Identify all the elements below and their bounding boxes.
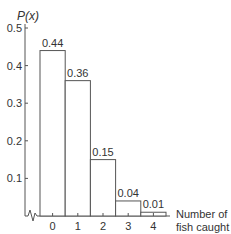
bar-0 [40, 51, 65, 216]
x-tick-label: 4 [150, 220, 156, 232]
bar-value-label: 0.15 [92, 146, 113, 158]
bar-value-label: 0.01 [143, 198, 164, 210]
bar-1 [65, 81, 90, 216]
x-tick-label: 3 [125, 220, 131, 232]
x-tick-label: 1 [75, 220, 81, 232]
bar-value-label: 0.04 [117, 187, 138, 199]
bar-value-label: 0.44 [42, 37, 63, 49]
probability-histogram: P(x) 0.10.20.30.40.5 0.440.360.150.040.0… [0, 0, 231, 234]
x-axis-title-line-1: Number of [176, 208, 228, 220]
y-tick-label: 0.3 [7, 97, 22, 109]
bar-value-label: 0.36 [67, 67, 88, 79]
y-tick-label: 0.5 [7, 22, 22, 34]
y-axis: P(x) [17, 9, 39, 216]
y-tick-label: 0.2 [7, 135, 22, 147]
x-tick-label: 0 [50, 220, 56, 232]
y-axis-title: P(x) [17, 9, 39, 23]
x-axis-title-line-2: fish caught [176, 221, 229, 233]
x-tick-label: 2 [100, 220, 106, 232]
y-tick-label: 0.1 [7, 172, 22, 184]
x-axis-title: Number of fish caught [176, 208, 229, 233]
y-tick-label: 0.4 [7, 60, 22, 72]
bar-2 [90, 160, 115, 216]
